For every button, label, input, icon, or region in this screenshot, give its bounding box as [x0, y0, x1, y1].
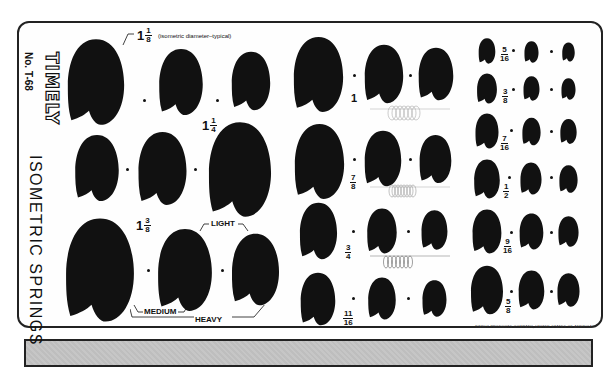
- size-label-1: 1: [351, 92, 357, 104]
- ellipse-3-4-medium: [366, 208, 398, 254]
- center-dot: [194, 168, 197, 171]
- center-dot: [550, 88, 553, 91]
- ellipse-11-16-heavy: [298, 272, 338, 326]
- size-label-5-8: 58: [505, 298, 511, 315]
- ellipse-1-2-light: [559, 164, 578, 194]
- leader-line: [122, 30, 134, 46]
- center-dot: [550, 50, 553, 53]
- center-dot: [550, 176, 553, 179]
- ellipse-1-1-4-light: [74, 134, 120, 202]
- spring-illustration: [370, 105, 450, 121]
- center-dot: [409, 158, 412, 161]
- size-label-1-2: 12: [503, 183, 509, 200]
- light-label: LIGHT: [211, 219, 235, 228]
- center-dot: [512, 49, 515, 52]
- ellipse-1-2-medium: [520, 162, 542, 195]
- size-label-1-3-8: 1 38: [136, 217, 151, 234]
- size-label-3-4: 34: [345, 244, 351, 261]
- ellipse-5-8-medium: [518, 270, 545, 310]
- ellipse-7-16-heavy: [474, 113, 500, 149]
- center-dot: [512, 88, 515, 91]
- ellipse-7-8-light: [419, 133, 452, 185]
- size-label-1-1-8: 1 18: [137, 27, 152, 44]
- center-dot: [352, 297, 355, 300]
- size-label-11-16: 1116: [343, 310, 353, 327]
- center-dot: [407, 297, 410, 300]
- center-dot: [550, 290, 553, 293]
- ellipse-5-8-heavy: [469, 265, 505, 315]
- ellipse-3-8-light: [561, 78, 576, 100]
- brand-logo: TIMELY: [42, 52, 62, 125]
- ellipse-7-8-heavy: [292, 123, 347, 200]
- ellipse-7-16-light: [560, 118, 577, 145]
- ellipse-1-3-8-light: [231, 232, 280, 307]
- center-dot: [409, 74, 412, 77]
- center-dot: [147, 269, 150, 272]
- size-label-9-16: 916: [503, 238, 512, 255]
- ellipse-1-1-8-medium: [157, 48, 205, 116]
- size-label-7-16: 716: [500, 135, 509, 152]
- center-dot: [221, 269, 224, 272]
- template-ledge: [24, 339, 593, 367]
- spring-illustration: [370, 253, 450, 269]
- ellipse-1-light: [418, 47, 454, 101]
- center-dot: [352, 230, 355, 233]
- ellipse-1-1-8-light: [231, 50, 271, 112]
- heavy-label: HEAVY: [195, 315, 222, 324]
- ellipse-5-16-medium: [524, 41, 539, 63]
- ellipse-1-1-8-heavy: [66, 38, 126, 126]
- size-label-1-1-4: 1 14: [202, 117, 217, 134]
- center-dot: [508, 176, 511, 179]
- ellipse-9-16-light: [558, 215, 579, 248]
- manufacturer-footer: TIMELY PRODUCTS COMPANY, UNITED STATES O…: [475, 325, 592, 329]
- center-dot: [510, 129, 513, 132]
- ellipse-1-3-8-medium: [157, 228, 213, 312]
- ellipse-3-8-medium: [523, 76, 540, 101]
- center-dot: [126, 168, 129, 171]
- template-title: ISOMETRIC SPRINGS: [26, 155, 44, 346]
- size-label-3-8: 38: [502, 88, 508, 105]
- center-dot: [143, 99, 146, 102]
- size-label-7-8: 78: [350, 174, 356, 191]
- center-dot: [407, 230, 410, 233]
- center-dot: [510, 290, 513, 293]
- medium-label: MEDIUM: [144, 307, 176, 316]
- typical-note: (isometric diameter–typical): [158, 33, 231, 39]
- center-dot: [353, 158, 356, 161]
- ellipse-5-16-heavy: [478, 38, 496, 64]
- ellipse-3-4-light: [421, 209, 448, 251]
- model-number: No. T-68: [23, 52, 34, 91]
- ellipse-1-heavy: [290, 36, 347, 113]
- ellipse-9-16-heavy: [471, 209, 503, 254]
- ellipse-3-4-heavy: [297, 202, 340, 260]
- spring-illustration: [370, 183, 450, 199]
- center-dot: [510, 231, 513, 234]
- ellipse-1-medium: [363, 44, 405, 104]
- center-dot: [216, 99, 219, 102]
- ellipse-7-16-medium: [522, 117, 541, 146]
- ellipse-11-16-light: [422, 279, 447, 318]
- ellipse-1-3-8-heavy: [62, 217, 138, 323]
- ellipse-1-2-heavy: [473, 159, 501, 199]
- ellipse-7-8-medium: [364, 130, 402, 187]
- ellipse-9-16-medium: [519, 213, 544, 250]
- center-dot: [550, 130, 553, 133]
- ellipse-1-1-4-heavy: [204, 121, 276, 218]
- ellipse-5-8-light: [557, 272, 580, 308]
- size-label-5-16: 516: [500, 46, 509, 63]
- center-dot: [550, 231, 553, 234]
- ellipse-1-1-4-medium: [136, 131, 189, 206]
- ellipse-5-16-light: [562, 42, 575, 62]
- center-dot: [353, 74, 356, 77]
- ellipse-3-8-heavy: [476, 73, 498, 104]
- ellipse-11-16-medium: [367, 277, 397, 320]
